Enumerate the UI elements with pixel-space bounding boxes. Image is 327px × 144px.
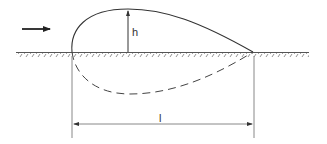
- length-dimension: l: [74, 112, 252, 124]
- lower-dashed-profile-curve: [72, 52, 253, 94]
- wall-surface: [16, 53, 309, 58]
- diagram-canvas: h l: [0, 0, 327, 144]
- length-label: l: [159, 112, 161, 124]
- height-label: h: [132, 26, 138, 38]
- height-dimension: h: [128, 11, 138, 52]
- upper-profile-curve: [72, 9, 253, 52]
